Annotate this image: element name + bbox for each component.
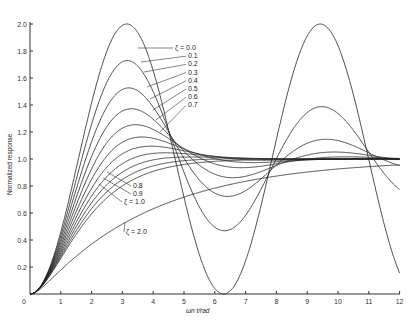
zeta-label: 0.8 <box>133 182 143 189</box>
curve-zeta-2 <box>30 165 400 294</box>
curve-zeta-1 <box>30 159 400 294</box>
x-ticks: 123456789101112 <box>59 291 404 305</box>
step-response-chart: 0.20.40.60.81.01.21.41.61.82.0 123456789… <box>0 0 416 326</box>
curve-zeta-0-1 <box>30 61 400 294</box>
y-tick-label: 1.2 <box>17 129 27 136</box>
x-tick-label: 7 <box>244 298 248 305</box>
y-tick-label: 1.6 <box>17 75 27 82</box>
x-tick-label: 12 <box>396 298 404 305</box>
x-tick-label: 9 <box>305 298 309 305</box>
x-tick-label: 1 <box>59 298 63 305</box>
x-tick-label: 5 <box>182 298 186 305</box>
x-tick-label: 4 <box>151 298 155 305</box>
zeta-label: ζ = 0.0 <box>175 44 196 52</box>
x-tick-label: 10 <box>334 298 342 305</box>
response-curves <box>30 24 400 294</box>
y-tick-label: 0.8 <box>17 183 27 190</box>
origin-label: 0 <box>22 298 26 305</box>
zeta-label: 0.7 <box>188 101 198 108</box>
zeta-label: ζ = 1.0 <box>124 198 145 206</box>
x-tick-label: 8 <box>274 298 278 305</box>
zeta-label: 0.3 <box>188 69 198 76</box>
curve-zeta-0-3 <box>30 109 400 294</box>
zeta-label: 0.6 <box>188 93 198 100</box>
curve-zeta-0-4 <box>30 125 400 294</box>
curve-zeta-0-9 <box>30 159 400 294</box>
y-tick-label: 1.8 <box>17 48 27 55</box>
curve-zeta-0-8 <box>30 157 400 294</box>
zeta-annotations: ζ = 0.00.10.20.30.40.50.60.70.80.9ζ = 1.… <box>99 44 198 236</box>
y-tick-label: 2.0 <box>17 21 27 28</box>
zeta-label: 0.1 <box>188 52 198 59</box>
x-axis-title: ωn t/rad <box>186 307 210 314</box>
zeta-label: ζ = 2.0 <box>126 228 147 236</box>
y-axis-title: Normalized response <box>6 133 14 195</box>
y-tick-label: 0.4 <box>17 237 27 244</box>
y-tick-label: 1.4 <box>17 102 27 109</box>
x-tick-label: 2 <box>90 298 94 305</box>
x-tick-label: 11 <box>365 298 372 305</box>
y-tick-label: 0.6 <box>17 210 27 217</box>
zeta-label: 0.4 <box>188 77 198 84</box>
y-ticks: 0.20.40.60.81.01.21.41.61.82.0 <box>17 21 33 271</box>
x-tick-label: 3 <box>120 298 124 305</box>
zeta-label: 0.5 <box>188 85 198 92</box>
y-tick-label: 0.2 <box>17 264 27 271</box>
x-tick-label: 6 <box>213 298 217 305</box>
zeta-label: 0.2 <box>188 60 198 67</box>
zeta-label: 0.9 <box>133 190 143 197</box>
y-tick-label: 1.0 <box>17 156 27 163</box>
